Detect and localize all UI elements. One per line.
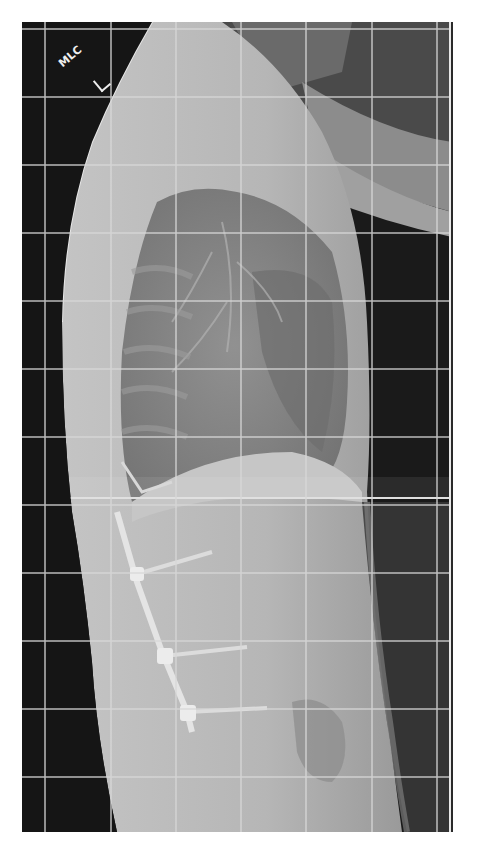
xray-image — [22, 22, 452, 832]
xray-anatomy — [22, 22, 452, 832]
film-edge — [451, 22, 453, 832]
